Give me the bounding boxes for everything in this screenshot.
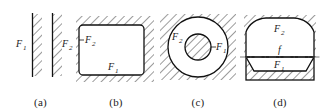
svg-text:F: F bbox=[15, 38, 23, 49]
panel-d-drawing: F 2 f F 1 bbox=[236, 0, 324, 92]
panel-b-drawing: F 2 F 1 bbox=[72, 0, 160, 92]
panel-c-drawing: F 2 F 1 bbox=[156, 0, 240, 92]
wall-right bbox=[53, 13, 63, 77]
svg-text:1: 1 bbox=[115, 67, 119, 75]
svg-text:2: 2 bbox=[179, 37, 183, 45]
svg-text:F: F bbox=[107, 61, 115, 72]
svg-text:F: F bbox=[273, 23, 281, 34]
wall-left-hatch bbox=[33, 14, 42, 76]
panel-a-caption: (a) bbox=[0, 96, 81, 108]
svg-text:1: 1 bbox=[223, 47, 227, 55]
wall-left bbox=[33, 13, 43, 77]
wall-right-hatch bbox=[53, 14, 62, 76]
svg-text:F: F bbox=[171, 31, 179, 42]
figure-root: F 1 F 2 (a) bbox=[0, 0, 324, 112]
panel-d-caption: (d) bbox=[236, 96, 324, 108]
svg-text:1: 1 bbox=[281, 65, 285, 73]
panel-d: F 2 f F 1 (d) bbox=[236, 0, 324, 112]
svg-text:F: F bbox=[61, 38, 69, 49]
svg-text:F: F bbox=[84, 34, 92, 45]
panel-c: F 2 F 1 (c) bbox=[156, 0, 240, 112]
label-F1: F 1 bbox=[15, 38, 27, 52]
svg-text:2: 2 bbox=[92, 40, 96, 48]
panel-a: F 1 F 2 (a) bbox=[0, 0, 81, 112]
panel-a-drawing: F 1 F 2 bbox=[0, 0, 81, 92]
svg-text:F: F bbox=[273, 59, 281, 70]
svg-text:1: 1 bbox=[23, 44, 27, 52]
panel-c-caption: (c) bbox=[156, 96, 240, 108]
panel-b: F 2 F 1 (b) bbox=[72, 0, 160, 112]
svg-text:2: 2 bbox=[281, 29, 285, 37]
panel-b-hatch-field bbox=[72, 0, 160, 92]
panel-b-caption: (b) bbox=[72, 96, 160, 108]
svg-text:F: F bbox=[215, 41, 223, 52]
